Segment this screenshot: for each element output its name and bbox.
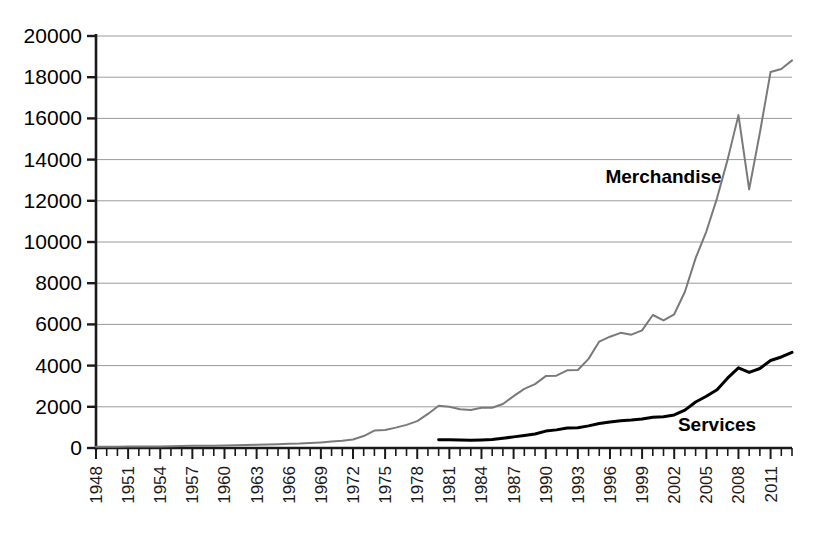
x-tick-label: 1981 — [440, 466, 459, 504]
y-tick-label: 20000 — [24, 24, 82, 47]
x-tick-label: 1954 — [151, 466, 170, 504]
y-tick-label: 14000 — [24, 148, 82, 171]
x-tick-label: 2011 — [762, 466, 781, 503]
x-axis-ticks — [96, 448, 792, 459]
gridlines — [96, 36, 792, 407]
x-tick-label: 1975 — [376, 466, 395, 504]
y-tick-label: 18000 — [24, 65, 82, 88]
x-tick-label: 1951 — [119, 466, 138, 504]
series-label-services: Services — [678, 414, 756, 435]
x-tick-label: 1984 — [472, 466, 491, 504]
x-tick-label: 2002 — [665, 466, 684, 504]
x-tick-label: 1987 — [505, 466, 524, 504]
x-axis-tick-labels: 1948195119541957196019631966196919721975… — [87, 466, 781, 504]
y-tick-label: 10000 — [24, 230, 82, 253]
series-label-merchandise: Merchandise — [605, 166, 721, 187]
y-tick-label: 6000 — [35, 312, 82, 335]
x-tick-label: 2008 — [729, 466, 748, 504]
x-tick-label: 1990 — [537, 466, 556, 504]
y-tick-label: 12000 — [24, 189, 82, 212]
y-tick-label: 0 — [70, 436, 82, 459]
chart-figure: 0200040006000800010000120001400016000180… — [0, 0, 814, 536]
y-tick-label: 2000 — [35, 395, 82, 418]
x-tick-label: 1960 — [215, 466, 234, 504]
x-tick-label: 1948 — [87, 466, 106, 504]
x-tick-label: 1978 — [408, 466, 427, 504]
x-tick-label: 1969 — [312, 466, 331, 504]
line-chart: 0200040006000800010000120001400016000180… — [0, 0, 814, 536]
x-tick-label: 2005 — [697, 466, 716, 504]
y-axis-tick-labels: 0200040006000800010000120001400016000180… — [24, 24, 82, 459]
y-axis-ticks — [87, 36, 96, 448]
x-tick-label: 1996 — [601, 466, 620, 504]
y-tick-label: 8000 — [35, 271, 82, 294]
x-tick-label: 1966 — [280, 466, 299, 504]
x-tick-label: 1972 — [344, 466, 363, 504]
x-tick-label: 1963 — [248, 466, 267, 504]
x-tick-label: 1999 — [633, 466, 652, 504]
x-tick-label: 1993 — [569, 466, 588, 504]
y-tick-label: 4000 — [35, 354, 82, 377]
y-tick-label: 16000 — [24, 106, 82, 129]
x-tick-label: 1957 — [183, 466, 202, 504]
